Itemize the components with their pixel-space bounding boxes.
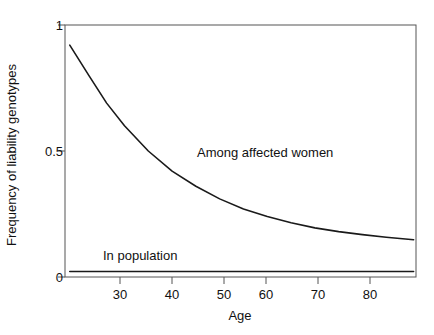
x-axis-ticks [120,277,370,284]
x-tick-label-80: 80 [363,287,377,302]
x-tick-label-30: 30 [113,287,127,302]
series-line-among-affected-women [70,45,414,240]
y-tick-label-1: 1 [56,18,63,33]
y-tick-label-0: 0 [56,270,63,285]
chart-figure: 1 0.5 0 30 40 50 60 70 80 Age Frequency … [0,0,434,335]
x-axis-title: Age [228,308,251,323]
y-tick-label-0-5: 0.5 [45,144,63,159]
y-axis-title: Frequency of liability genotypes [4,64,19,246]
x-tick-label-70: 70 [311,287,325,302]
x-tick-label-50: 50 [217,287,231,302]
plot-area [0,0,434,335]
x-tick-label-60: 60 [259,287,273,302]
series-label-in-population: In population [103,248,177,263]
series-label-among-affected-women: Among affected women [197,145,333,160]
x-tick-label-40: 40 [165,287,179,302]
